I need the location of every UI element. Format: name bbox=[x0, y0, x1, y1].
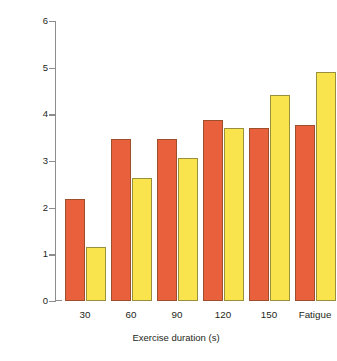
y-axis-tick-0 bbox=[49, 301, 56, 302]
y-tick-label-5: 5 bbox=[26, 63, 48, 73]
bar-group-150 bbox=[249, 21, 290, 301]
y-axis-tick-4 bbox=[49, 114, 56, 115]
bar-group-90 bbox=[157, 21, 198, 301]
y-tick-label-3: 3 bbox=[26, 156, 48, 166]
plot-area bbox=[56, 21, 337, 301]
bar-series-a-30 bbox=[65, 199, 85, 301]
bar-chart: Change in Leucocytes (x109 .l–1) 0123456… bbox=[0, 0, 337, 361]
bar-series-a-fatigue bbox=[295, 125, 315, 301]
bar-series-a-120 bbox=[203, 120, 223, 301]
x-tick-label-fatigue: Fatigue bbox=[285, 309, 337, 321]
bar-group-30 bbox=[65, 21, 106, 301]
bar-series-b-60 bbox=[132, 178, 152, 301]
bar-series-a-150 bbox=[249, 128, 269, 301]
y-axis-tick-5 bbox=[49, 68, 56, 69]
bar-group-60 bbox=[111, 21, 152, 301]
y-axis-tick-2 bbox=[49, 208, 56, 209]
bar-series-b-fatigue bbox=[316, 72, 336, 301]
bar-series-b-30 bbox=[86, 247, 106, 301]
bar-group-fatigue bbox=[295, 21, 336, 301]
bar-series-b-90 bbox=[178, 158, 198, 301]
y-tick-label-0: 0 bbox=[26, 296, 48, 306]
y-tick-label-6: 6 bbox=[26, 16, 48, 26]
y-axis-tick-labels: 0123456 bbox=[22, 0, 48, 361]
x-axis-label: Exercise duration (s) bbox=[56, 332, 296, 343]
y-tick-label-1: 1 bbox=[26, 249, 48, 259]
bar-group-120 bbox=[203, 21, 244, 301]
bar-series-b-120 bbox=[224, 128, 244, 301]
y-axis-tick-3 bbox=[49, 161, 56, 162]
bar-series-a-90 bbox=[157, 139, 177, 301]
y-axis-tick-6 bbox=[49, 21, 56, 22]
y-tick-label-2: 2 bbox=[26, 203, 48, 213]
bar-series-b-150 bbox=[270, 95, 290, 301]
y-tick-label-4: 4 bbox=[26, 109, 48, 119]
bar-series-a-60 bbox=[111, 139, 131, 301]
y-axis-tick-1 bbox=[49, 254, 56, 255]
